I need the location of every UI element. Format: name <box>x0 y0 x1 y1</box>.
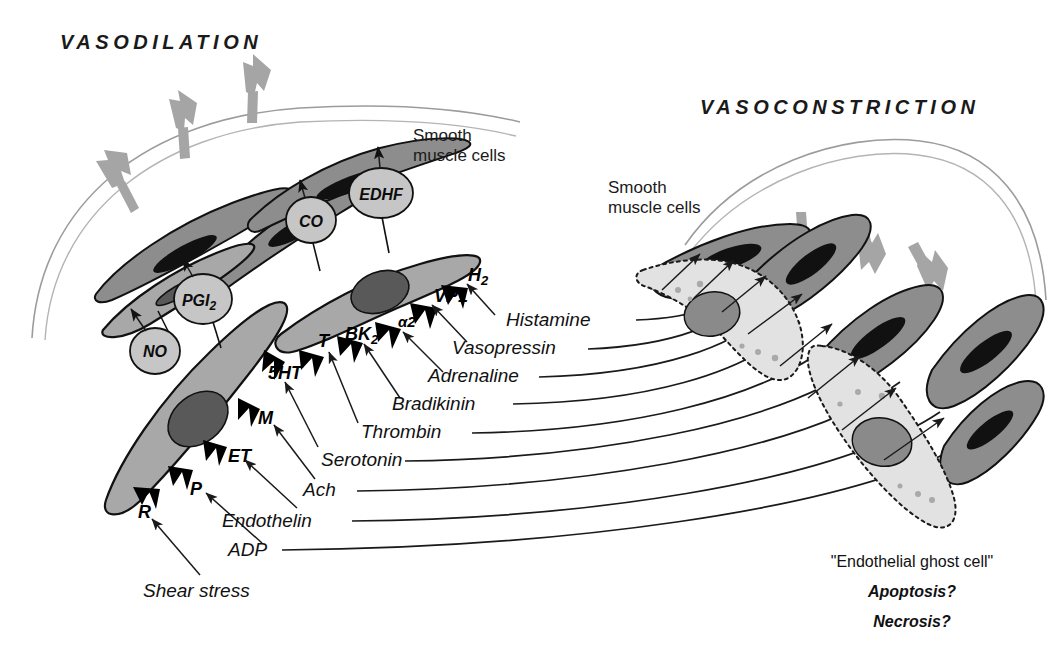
ligand-label-endothelin: Endothelin <box>222 510 312 531</box>
smooth-muscle-label-line2: muscle cells <box>608 198 701 217</box>
arrow-ach-to-M <box>274 425 315 479</box>
smooth-muscle-label-line2: muscle cells <box>413 146 506 165</box>
arrow-histamine-to-H2 <box>467 284 495 315</box>
ghost-cell-apoptosis-label: Apoptosis? <box>867 583 956 600</box>
receptor-label-alpha2: α2 <box>398 313 416 330</box>
smooth-muscle-label-left: Smooth muscle cells <box>413 126 506 165</box>
ghost-cell-label: "Endothelial ghost cell" <box>831 553 994 570</box>
title-vasoconstriction: VASOCONSTRICTION <box>700 96 979 118</box>
mediator-label-text: PGI <box>182 292 210 309</box>
receptor-label-R: R <box>138 502 151 522</box>
mediator-label: CO <box>299 213 324 230</box>
mediator-label: NO <box>143 343 168 360</box>
receptor-label-BK2-sub: 2 <box>370 332 379 347</box>
ligand-label-adrenaline: Adrenaline <box>427 365 519 386</box>
receptor-label-BK2: BK2 <box>345 324 379 347</box>
flow-arrows-vasodilation <box>96 54 271 213</box>
arrow-endothelin-to-ET <box>245 460 297 508</box>
mediator-label-sub: 2 <box>208 299 216 313</box>
smooth-muscle-label-line1: Smooth <box>608 178 667 197</box>
diagram-canvas: VASODILATION VASOCONSTRICTION <box>0 0 1060 656</box>
ligand-label-ADP: ADP <box>227 539 267 560</box>
smooth-muscle-label-right: Smooth muscle cells <box>608 178 701 217</box>
receptor-label-BK2-text: BK <box>345 324 373 344</box>
receptor-label-5HT: 5HT <box>268 363 304 383</box>
receptor-label-P: P <box>190 479 203 499</box>
receptor-label-H2-sub: 2 <box>480 273 489 288</box>
ligand-label-thrombin: Thrombin <box>361 421 441 442</box>
receptor-label-H2: H2 <box>468 265 489 288</box>
ligand-label-bradikinin: Bradikinin <box>392 393 475 414</box>
smooth-muscle-cells-right <box>650 215 1044 484</box>
ghost-cell-annotations: "Endothelial ghost cell" Apoptosis? Necr… <box>831 553 994 630</box>
arrow-bradikinin-to-BK2 <box>364 344 400 398</box>
receptor-label-VP1: VP1 <box>434 286 468 306</box>
flow-arrow-out-2 <box>169 90 197 159</box>
mediator-label: EDHF <box>359 186 404 203</box>
ligand-label-vasopressin: Vasopressin <box>452 337 556 358</box>
arrow-shear-stress-to-R <box>152 519 200 575</box>
title-vasodilation: VASODILATION <box>60 31 262 53</box>
arrow-thrombin-to-T <box>329 352 358 423</box>
ligand-label-histamine: Histamine <box>506 309 590 330</box>
ghost-cell-necrosis-label: Necrosis? <box>873 613 951 630</box>
ligand-label-ach: Ach <box>302 479 336 500</box>
receptor-label-M: M <box>258 408 274 428</box>
flow-arrow-in-3 <box>908 242 948 291</box>
arrow-serotonin-to-5HT <box>285 382 318 447</box>
ligand-label-serotonin: Serotonin <box>321 449 402 470</box>
receptor-label-H2-text: H <box>468 265 482 285</box>
smooth-muscle-label-line1: Smooth <box>413 126 472 145</box>
flow-arrow-out-3 <box>243 54 271 123</box>
ligand-label-shear-stress: Shear stress <box>143 580 250 601</box>
